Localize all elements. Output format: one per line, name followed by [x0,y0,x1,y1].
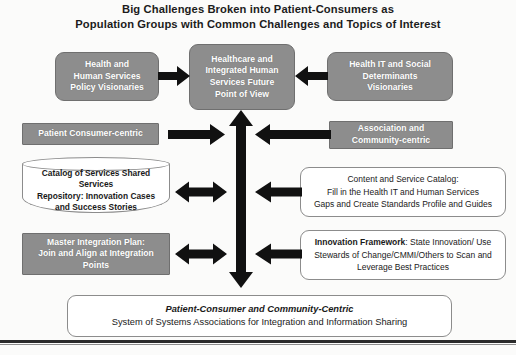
node-patient-consumer-centric[interactable]: Patient Consumer-centric [22,123,159,145]
catalog-line-1: Catalog of Services Shared [25,168,167,179]
node-innovation-framework[interactable]: Innovation Framework: State Innovation/ … [300,230,506,280]
catalog-line-4: and Success Stories [25,202,167,213]
arrow-row2-left-icon [168,124,226,145]
arrow-row3-left-double-icon [175,181,227,203]
node-catalog-services-repository[interactable]: Catalog of Services Shared Services Repo… [22,157,170,213]
center-vision-line-1: Healthcare and [205,54,278,66]
arrow-row4-right-icon [255,243,302,265]
arrow-center-spine-icon [228,110,254,288]
innovation-framework-line-2: Stewards of Change/CMMI/Others to Scan a… [314,249,492,261]
association-line-2: Community-centric [352,135,430,147]
content-catalog-line-2: Fill in the Health IT and Human Services [314,186,492,198]
arrow-row2-right-icon [255,124,331,145]
innovation-framework-line-1: Innovation Framework: State Innovation/ … [314,236,492,248]
bottom-summary-line-1: Patient-Consumer and Community-Centric [112,303,408,316]
node-association-community-centric[interactable]: Association and Community-centric [329,121,453,149]
catalog-line-2: Services [25,179,167,190]
bottom-divider-shadow [0,344,516,345]
page-title: Big Challenges Broken into Patient-Consu… [30,2,486,31]
center-vision-line-2: Integrated Human [205,65,278,77]
content-catalog-line-1: Content and Service Catalog: [314,173,492,185]
arrow-row3-right-icon [255,181,302,203]
bottom-summary-line-2: System of Systems Associations for Integ… [112,316,408,329]
health-it-line-3: Visionaries [349,82,431,94]
hhs-policy-line-3: Policy Visionaries [70,82,143,94]
node-bottom-summary[interactable]: Patient-Consumer and Community-Centric S… [67,295,452,337]
bottom-divider [0,340,516,343]
center-vision-line-4: Point of View [205,89,278,101]
node-master-integration-plan[interactable]: Master Integration Plan: Join and Align … [22,233,170,275]
arrow-hhs-to-center-icon [158,65,191,87]
node-content-service-catalog[interactable]: Content and Service Catalog: Fill in the… [300,167,506,217]
innovation-framework-rest: : State Innovation/ Use [405,237,491,247]
page-title-line1: Big Challenges Broken into Patient-Consu… [30,2,486,17]
hhs-policy-line-1: Health and [70,59,143,71]
arrow-row4-left-double-icon [175,243,227,265]
node-health-it-social-determinants-visionaries[interactable]: Health IT and Social Determinants Vision… [327,52,453,101]
association-line-1: Association and [352,123,430,135]
patient-consumer-centric-label: Patient Consumer-centric [38,128,143,140]
page-title-line2: Population Groups with Common Challenges… [30,17,486,32]
hhs-policy-line-2: Human Services [70,71,143,83]
node-healthcare-integrated-human-services-future-pov[interactable]: Healthcare and Integrated Human Services… [189,44,295,110]
center-vision-line-3: Services Future [205,77,278,89]
health-it-line-1: Health IT and Social [349,59,431,71]
master-plan-line-1: Master Integration Plan: [38,237,154,249]
innovation-framework-line-3: Leverage Best Practices [314,261,492,273]
master-plan-line-2: Join and Align at Integration [38,248,154,260]
innovation-framework-bold-lead: Innovation Framework [315,237,406,247]
health-it-line-2: Determinants [349,71,431,83]
node-hhs-policy-visionaries[interactable]: Health and Human Services Policy Visiona… [55,52,159,101]
catalog-repository-text: Catalog of Services Shared Services Repo… [25,168,167,214]
master-plan-line-3: Points [38,260,154,272]
diagram-canvas: Big Challenges Broken into Patient-Consu… [0,0,516,355]
content-catalog-line-3: Gaps and Create Standards Profile and Gu… [314,198,492,210]
arrow-healthit-to-center-icon [294,65,328,87]
catalog-line-3: Repository: Innovation Cases [25,191,167,202]
